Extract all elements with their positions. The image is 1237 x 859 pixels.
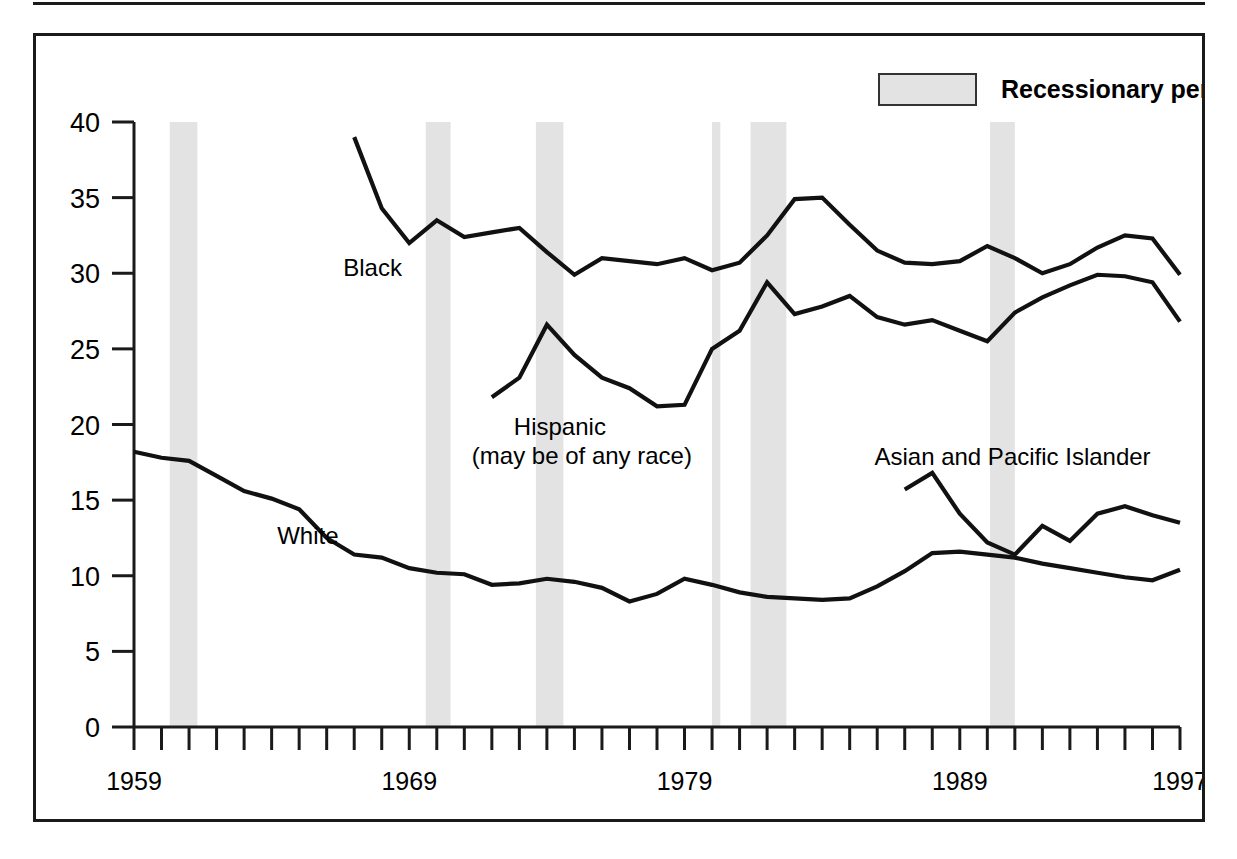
legend-swatch-recession [879, 74, 976, 105]
y-tick-label-8: 40 [70, 108, 100, 138]
series-line-asian-and-pacific-islander [905, 473, 1180, 555]
x-tick-label-3: 1989 [932, 767, 988, 795]
recession-band-1 [426, 122, 451, 727]
chart-frame: 0510152025303540 19591969197919891997 Wh… [33, 33, 1205, 822]
series-label-hispanic-may-be-of-any-race: Hispanic [514, 413, 606, 440]
axes-group [112, 122, 1180, 750]
series-line-hispanic-may-be-of-any-race [492, 275, 1180, 407]
y-tick-label-1: 5 [85, 637, 100, 667]
recession-band-5 [990, 122, 1015, 727]
poverty-rate-line-chart: 0510152025303540 19591969197919891997 Wh… [36, 36, 1202, 819]
series-label-black: Black [343, 254, 403, 281]
recession-band-3 [712, 122, 720, 727]
series-label-white: White [277, 522, 338, 549]
top-rule-divider [33, 2, 1205, 5]
y-axis-tick-labels: 0510152025303540 [70, 108, 100, 743]
chart-page: 0510152025303540 19591969197919891997 Wh… [0, 0, 1237, 859]
series-label-asian-and-pacific-islander: Asian and Pacific Islander [874, 443, 1150, 470]
x-tick-label-2: 1979 [657, 767, 713, 795]
legend-label-recession: Recessionary period [1001, 75, 1202, 103]
recession-band-4 [751, 122, 787, 727]
x-axis-tick-labels: 19591969197919891997 [106, 767, 1202, 795]
series-label-hispanic-may-be-of-any-race-sub: (may be of any race) [472, 442, 692, 469]
x-tick-label-4: 1997 [1152, 767, 1202, 795]
y-tick-label-0: 0 [85, 713, 100, 743]
y-tick-label-4: 20 [70, 411, 100, 441]
x-tick-label-1: 1969 [381, 767, 437, 795]
recession-band-0 [170, 122, 198, 727]
legend: Recessionary period [879, 74, 1202, 105]
y-tick-label-3: 15 [70, 486, 100, 516]
y-tick-label-7: 35 [70, 184, 100, 214]
y-tick-label-6: 30 [70, 259, 100, 289]
x-tick-label-0: 1959 [106, 767, 162, 795]
y-tick-label-5: 25 [70, 335, 100, 365]
y-tick-label-2: 10 [70, 562, 100, 592]
